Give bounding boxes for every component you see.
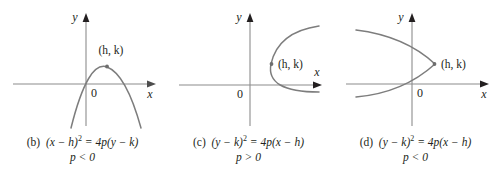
- y-axis-label: y: [235, 10, 242, 24]
- panel-d-condition: p < 0: [333, 150, 498, 165]
- y-axis-label: y: [71, 10, 78, 24]
- panel-c-caption: (c) (y − k)2 = 4p(x − h) p > 0: [166, 131, 331, 165]
- panel-c-tag: (c): [193, 136, 206, 148]
- panel-b-equation-prefix: (x − h): [46, 136, 78, 148]
- origin-label: 0: [91, 86, 97, 100]
- panel-b-caption: (b) (x − h)2 = 4p(y − k) p < 0: [0, 131, 165, 165]
- panel-d: y x 0 (h, k) (d) (y − k)2 = 4p(x − h) p …: [333, 0, 498, 173]
- vertex-point: [105, 65, 109, 69]
- vertex-point: [433, 62, 437, 66]
- y-axis: [83, 13, 90, 126]
- panel-c-equation-suffix: = 4p(x − h): [247, 136, 304, 148]
- vertex-label: (h, k): [99, 44, 124, 57]
- vertex-label: (h, k): [441, 58, 466, 71]
- panel-d-caption: (d) (y − k)2 = 4p(x − h) p < 0: [333, 131, 498, 165]
- panel-b-plot: y x 0 (h, k): [0, 0, 165, 132]
- x-axis-label: x: [146, 87, 153, 101]
- panel-d-equation-suffix: = 4p(x − h): [414, 136, 471, 148]
- panel-c-equation-prefix: (y − k): [212, 136, 243, 148]
- vertex-point: [270, 62, 274, 66]
- panel-b-condition: p < 0: [0, 150, 165, 165]
- parabola-figure-row: y x 0 (h, k) (b) (x − h)2 = 4p(y − k) p …: [0, 0, 500, 173]
- panel-b: y x 0 (h, k) (b) (x − h)2 = 4p(y − k) p …: [0, 0, 165, 173]
- y-axis: [247, 13, 254, 126]
- panel-d-tag: (d): [360, 136, 373, 148]
- vertex-label: (h, k): [278, 58, 303, 71]
- parabola-curve: [356, 30, 435, 97]
- x-axis-label: x: [313, 65, 320, 79]
- panel-d-plot: y x 0 (h, k): [333, 0, 498, 132]
- panel-c: y x 0 (h, k) (c) (y − k)2 = 4p(x − h) p …: [166, 0, 331, 173]
- y-axis-label: y: [397, 10, 404, 24]
- origin-label: 0: [417, 86, 423, 100]
- origin-label: 0: [237, 87, 243, 101]
- y-axis: [409, 13, 416, 126]
- panel-c-plot: y x 0 (h, k): [166, 0, 331, 132]
- panel-b-equation-suffix: = 4p(y − k): [82, 136, 138, 148]
- panel-b-tag: (b): [27, 136, 40, 148]
- parabola-curve: [71, 66, 141, 128]
- panel-c-condition: p > 0: [166, 150, 331, 165]
- x-axis-label: x: [480, 87, 487, 101]
- panel-d-equation-prefix: (y − k): [379, 136, 410, 148]
